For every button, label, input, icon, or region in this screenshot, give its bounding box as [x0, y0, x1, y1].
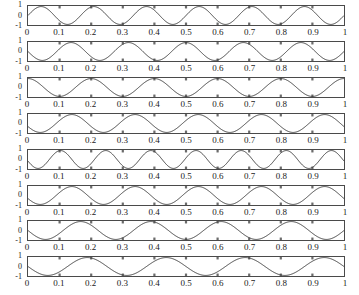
x-tick-label: 0.3: [117, 207, 128, 217]
x-tick-label: 0: [25, 99, 30, 109]
x-tick-label: 0.4: [149, 99, 160, 109]
x-tick-label: 0.1: [53, 27, 64, 37]
y-tick-label: 0: [18, 83, 22, 91]
x-tick-label: 0.6: [212, 27, 223, 37]
x-tick-label: 0.5: [180, 27, 191, 37]
y-axis-labels-5: 10-1: [0, 149, 25, 170]
x-tick-label: 0.8: [276, 242, 287, 252]
x-tick-label: 0.8: [276, 135, 287, 145]
x-tick-label: 0: [25, 135, 30, 145]
y-axis-labels-7: 10-1: [0, 220, 25, 241]
x-tick-label: 0: [25, 278, 30, 288]
x-tick-label: 0.1: [53, 278, 64, 288]
x-tick-label: 0.1: [53, 171, 64, 181]
x-tick-label: 0.1: [53, 63, 64, 73]
x-tick-label: 0.8: [276, 99, 287, 109]
y-tick-label: -1: [15, 273, 22, 281]
y-axis-labels-8: 10-1: [0, 256, 25, 277]
x-axis-labels-7: 00.10.20.30.40.50.60.70.80.91: [27, 242, 345, 254]
x-tick-label: 0.2: [85, 207, 96, 217]
plot-area-3: [27, 77, 345, 98]
x-tick-label: 0.3: [117, 63, 128, 73]
x-tick-label: 0.6: [212, 135, 223, 145]
y-tick-label: 1: [18, 216, 22, 224]
x-tick-label: 1: [343, 63, 348, 73]
x-tick-label: 0: [25, 242, 30, 252]
x-tick-label: 0: [25, 171, 30, 181]
waveform-curve: [28, 150, 344, 168]
x-tick-label: 0.3: [117, 278, 128, 288]
x-tick-label: 0.9: [308, 207, 319, 217]
x-tick-label: 0.4: [149, 27, 160, 37]
x-tick-label: 1: [343, 27, 348, 37]
x-tick-label: 0.2: [85, 135, 96, 145]
x-tick-label: 0.4: [149, 135, 160, 145]
x-tick-label: 0.4: [149, 242, 160, 252]
x-tick-label: 0.8: [276, 278, 287, 288]
y-axis-labels-2: 10-1: [0, 41, 25, 62]
x-tick-label: 0.3: [117, 171, 128, 181]
x-tick-label: 0.2: [85, 27, 96, 37]
y-tick-label: -1: [15, 166, 22, 174]
x-tick-label: 0.1: [53, 242, 64, 252]
y-tick-label: 1: [18, 1, 22, 9]
x-axis-labels-5: 00.10.20.30.40.50.60.70.80.91: [27, 171, 345, 183]
y-axis-labels-1: 10-1: [0, 5, 25, 26]
y-axis-labels-3: 10-1: [0, 77, 25, 98]
x-axis-labels-3: 00.10.20.30.40.50.60.70.80.91: [27, 99, 345, 111]
x-tick-label: 0.4: [149, 171, 160, 181]
x-tick-label: 0.9: [308, 27, 319, 37]
plot-area-1: [27, 5, 345, 26]
y-tick-label: 0: [18, 47, 22, 55]
x-tick-label: 0.9: [308, 135, 319, 145]
x-tick-label: 0.7: [244, 207, 255, 217]
x-tick-label: 0.5: [180, 99, 191, 109]
x-tick-label: 0.9: [308, 63, 319, 73]
x-tick-label: 1: [343, 99, 348, 109]
x-tick-label: 0: [25, 27, 30, 37]
x-tick-label: 0.8: [276, 63, 287, 73]
x-tick-label: 0.5: [180, 207, 191, 217]
x-tick-label: 0.1: [53, 207, 64, 217]
y-tick-label: -1: [15, 94, 22, 102]
y-tick-label: 1: [18, 37, 22, 45]
y-tick-label: -1: [15, 22, 22, 30]
x-tick-label: 0.7: [244, 171, 255, 181]
x-tick-label: 0.7: [244, 242, 255, 252]
y-tick-label: -1: [15, 58, 22, 66]
x-axis-labels-1: 00.10.20.30.40.50.60.70.80.91: [27, 27, 345, 39]
x-tick-label: 0.7: [244, 278, 255, 288]
x-tick-label: 0.5: [180, 278, 191, 288]
y-tick-label: 0: [18, 119, 22, 127]
x-tick-label: 0.6: [212, 242, 223, 252]
y-tick-label: 0: [18, 227, 22, 235]
x-tick-label: 0.7: [244, 135, 255, 145]
x-tick-label: 0.2: [85, 171, 96, 181]
y-tick-label: -1: [15, 130, 22, 138]
waveform-curve: [28, 42, 344, 60]
x-tick-label: 0.9: [308, 99, 319, 109]
x-axis-labels-4: 00.10.20.30.40.50.60.70.80.91: [27, 135, 345, 147]
x-tick-label: 0.6: [212, 63, 223, 73]
y-tick-label: 0: [18, 12, 22, 20]
x-tick-label: 0.1: [53, 99, 64, 109]
y-tick-label: 1: [18, 73, 22, 81]
x-tick-label: 0.5: [180, 242, 191, 252]
x-tick-label: 0.3: [117, 135, 128, 145]
waveform-curve: [28, 114, 344, 132]
plot-area-7: [27, 220, 345, 241]
x-tick-label: 0.6: [212, 278, 223, 288]
y-tick-label: -1: [15, 237, 22, 245]
x-tick-label: 0.9: [308, 171, 319, 181]
x-tick-label: 0.3: [117, 99, 128, 109]
y-tick-label: 0: [18, 155, 22, 163]
x-tick-label: 0.4: [149, 207, 160, 217]
x-tick-label: 0.3: [117, 27, 128, 37]
figure-canvas: 10-100.10.20.30.40.50.60.70.80.9110-100.…: [0, 0, 359, 295]
y-axis-labels-6: 10-1: [0, 185, 25, 206]
plot-area-4: [27, 113, 345, 134]
x-axis-labels-8: 00.10.20.30.40.50.60.70.80.91: [27, 278, 345, 290]
x-tick-label: 0.2: [85, 278, 96, 288]
x-tick-label: 1: [343, 135, 348, 145]
x-tick-label: 0.1: [53, 135, 64, 145]
